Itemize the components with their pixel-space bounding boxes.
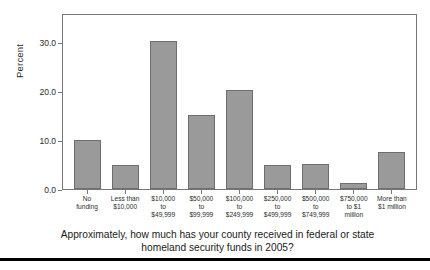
x-tick-mark [315, 190, 316, 194]
y-tick-2: 20.0 [39, 87, 62, 97]
x-tick-mark [353, 190, 354, 194]
x-tick-mark [125, 190, 126, 194]
y-tick-label: 20.0 [39, 87, 56, 97]
bar[interactable] [150, 41, 177, 189]
footer-divider [0, 258, 430, 261]
bar[interactable] [302, 164, 329, 189]
y-tick-label: 30.0 [39, 38, 56, 48]
x-tick-label: $10,000 to $49,999 [144, 195, 182, 220]
caption-line-1: Approximately, how much has your county … [30, 229, 405, 242]
x-tick-mark [391, 190, 392, 194]
y-axis-ticks: 0.010.020.030.0 [30, 14, 62, 190]
bar[interactable] [378, 152, 405, 189]
x-tick-mark [201, 190, 202, 194]
bar-slot [296, 15, 334, 189]
x-axis-ticks [62, 190, 417, 194]
bar-slot [183, 15, 221, 189]
x-tick-label: $500,000 to $749,999 [297, 195, 335, 220]
bar-slot [69, 15, 107, 189]
bar[interactable] [264, 165, 291, 189]
bar-slot [221, 15, 259, 189]
x-tick-slot [182, 190, 220, 194]
x-tick-slot [220, 190, 258, 194]
y-tick-1: 10.0 [39, 136, 62, 146]
bar-slot [107, 15, 145, 189]
bar[interactable] [112, 165, 139, 189]
x-tick-label: $50,000 to $99,999 [182, 195, 220, 220]
x-tick-mark [239, 190, 240, 194]
bar[interactable] [226, 90, 253, 189]
x-tick-label: $100,000 to $249,999 [220, 195, 258, 220]
x-tick-label: No funding [68, 195, 106, 220]
bar[interactable] [340, 183, 367, 189]
bar-slot [258, 15, 296, 189]
y-axis-label: Percent [14, 44, 25, 78]
x-tick-slot [297, 190, 335, 194]
x-tick-mark [163, 190, 164, 194]
y-tick-label: 0.0 [44, 185, 56, 195]
x-tick-label: More than $1 million [373, 195, 411, 220]
x-tick-slot [373, 190, 411, 194]
plot-area [62, 14, 417, 190]
x-tick-label: Less than $10,000 [106, 195, 144, 220]
bars-container [63, 15, 416, 189]
x-tick-slot [335, 190, 373, 194]
x-tick-mark [87, 190, 88, 194]
y-tick-label: 10.0 [39, 136, 56, 146]
chart-caption: Approximately, how much has your county … [30, 229, 405, 254]
caption-line-2: homeland security funds in 2005? [30, 242, 405, 255]
x-tick-label: $750,000 to $1 million [335, 195, 373, 220]
y-tick-0: 0.0 [44, 185, 62, 195]
x-tick-label: $250,000 to $499,999 [259, 195, 297, 220]
x-tick-slot [259, 190, 297, 194]
chart-figure: Percent 0.010.020.030.0 No fundingLess t… [0, 0, 430, 270]
x-axis-labels: No fundingLess than $10,000$10,000 to $4… [62, 195, 417, 220]
bar-slot [372, 15, 410, 189]
x-tick-mark [277, 190, 278, 194]
y-tick-3: 30.0 [39, 38, 62, 48]
bar[interactable] [74, 140, 101, 189]
x-tick-slot [106, 190, 144, 194]
x-tick-slot [68, 190, 106, 194]
bar-slot [334, 15, 372, 189]
bar[interactable] [188, 115, 215, 189]
x-tick-slot [144, 190, 182, 194]
bar-slot [145, 15, 183, 189]
